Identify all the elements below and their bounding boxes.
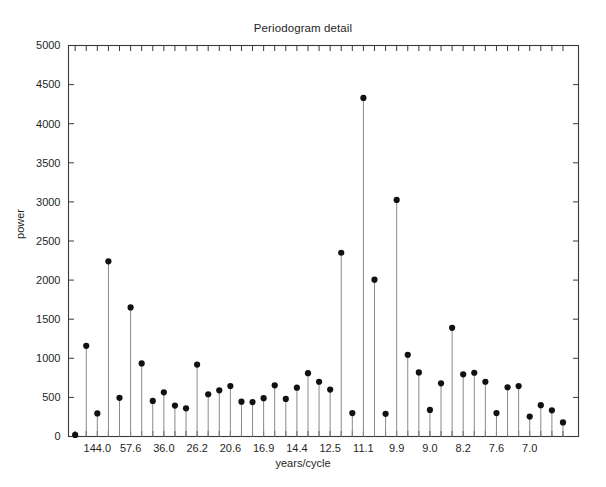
data-point-marker bbox=[549, 407, 555, 413]
data-point-marker bbox=[371, 277, 377, 283]
data-point-marker bbox=[272, 382, 278, 388]
data-point-marker bbox=[482, 379, 488, 385]
data-point-marker bbox=[283, 396, 289, 402]
x-tick-label: 9.9 bbox=[389, 442, 404, 454]
x-tick-labels: 144.057.636.026.220.616.914.412.511.19.9… bbox=[84, 442, 538, 454]
x-tick-label: 26.2 bbox=[186, 442, 207, 454]
data-point-marker bbox=[127, 304, 133, 310]
data-point-marker bbox=[471, 370, 477, 376]
data-point-marker bbox=[316, 379, 322, 385]
y-tick-label: 3500 bbox=[36, 157, 60, 169]
data-point-marker bbox=[382, 411, 388, 417]
data-point-marker bbox=[205, 391, 211, 397]
data-point-marker bbox=[305, 370, 311, 376]
data-point-marker bbox=[94, 410, 100, 416]
data-point-marker bbox=[405, 352, 411, 358]
data-point-marker bbox=[327, 386, 333, 392]
x-tick-label: 7.6 bbox=[489, 442, 504, 454]
periodogram-figure: Periodogram detail power years/cycle 050… bbox=[0, 0, 606, 487]
data-point-marker bbox=[72, 432, 78, 438]
data-point-marker bbox=[516, 383, 522, 389]
data-point-marker bbox=[216, 387, 222, 393]
y-tick-labels: 0500100015002000250030003500400045005000 bbox=[36, 39, 60, 442]
data-point-marker bbox=[493, 410, 499, 416]
y-tick-label: 2000 bbox=[36, 274, 60, 286]
y-tick-label: 4000 bbox=[36, 118, 60, 130]
data-point-marker bbox=[349, 410, 355, 416]
data-point-marker bbox=[105, 258, 111, 264]
y-tick-label: 2500 bbox=[36, 235, 60, 247]
x-tick-label: 16.9 bbox=[253, 442, 274, 454]
data-point-marker bbox=[294, 385, 300, 391]
data-point-marker bbox=[416, 369, 422, 375]
data-point-marker bbox=[227, 383, 233, 389]
x-tick-label: 11.1 bbox=[353, 442, 374, 454]
x-tick-label: 144.0 bbox=[84, 442, 112, 454]
x-tick-label: 7.0 bbox=[522, 442, 537, 454]
data-point-marker bbox=[116, 395, 122, 401]
data-point-marker bbox=[249, 399, 255, 405]
data-point-marker bbox=[150, 398, 156, 404]
x-tick-marks bbox=[75, 46, 563, 437]
y-tick-label: 500 bbox=[42, 391, 60, 403]
data-point-marker bbox=[139, 360, 145, 366]
y-tick-label: 4500 bbox=[36, 78, 60, 90]
data-point-marker bbox=[560, 419, 566, 425]
stem-lines bbox=[75, 98, 563, 437]
data-point-marker bbox=[438, 380, 444, 386]
axes-frame bbox=[69, 46, 579, 437]
x-tick-label: 20.6 bbox=[220, 442, 241, 454]
y-tick-label: 1000 bbox=[36, 352, 60, 364]
data-point-marker bbox=[338, 250, 344, 256]
plot-area: 0500100015002000250030003500400045005000… bbox=[0, 0, 606, 487]
y-tick-label: 1500 bbox=[36, 313, 60, 325]
x-tick-label: 8.2 bbox=[456, 442, 471, 454]
data-point-marker bbox=[238, 399, 244, 405]
x-tick-label: 12.5 bbox=[319, 442, 340, 454]
data-point-marker bbox=[183, 405, 189, 411]
data-point-marker bbox=[394, 197, 400, 203]
data-point-marker bbox=[538, 402, 544, 408]
data-point-marker bbox=[83, 343, 89, 349]
x-tick-label: 57.6 bbox=[120, 442, 141, 454]
x-tick-label: 14.4 bbox=[286, 442, 307, 454]
data-point-marker bbox=[527, 413, 533, 419]
data-point-marker bbox=[261, 395, 267, 401]
x-tick-label: 36.0 bbox=[153, 442, 174, 454]
data-point-marker bbox=[460, 371, 466, 377]
data-point-marker bbox=[449, 325, 455, 331]
x-tick-label: 9.0 bbox=[422, 442, 437, 454]
y-tick-label: 3000 bbox=[36, 196, 60, 208]
data-point-marker bbox=[360, 95, 366, 101]
data-point-marker bbox=[427, 407, 433, 413]
data-point-marker bbox=[161, 389, 167, 395]
y-tick-marks bbox=[69, 46, 579, 437]
y-tick-label: 5000 bbox=[36, 39, 60, 51]
data-point-marker bbox=[504, 384, 510, 390]
data-point-marker bbox=[194, 361, 200, 367]
data-point-marker bbox=[172, 403, 178, 409]
y-tick-label: 0 bbox=[54, 430, 60, 442]
